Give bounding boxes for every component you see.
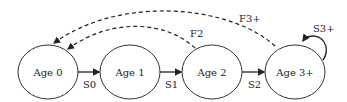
node-label: Age 3+	[275, 67, 313, 78]
node-age-0: Age 0	[18, 45, 78, 99]
edge-label: S3+	[313, 23, 335, 34]
edge-label: F3+	[239, 13, 261, 24]
node-age-2: Age 2	[182, 45, 242, 99]
edge-s1: S1	[160, 72, 181, 90]
diagram-svg: Age 0 Age 1 Age 2 Age 3+ S0 S1 S2	[0, 0, 347, 102]
edge-label: F2	[190, 28, 203, 39]
node-label: Age 1	[114, 67, 144, 78]
age-structured-life-cycle-diagram: Age 0 Age 1 Age 2 Age 3+ S0 S1 S2	[0, 0, 347, 102]
node-age-1: Age 1	[100, 45, 160, 99]
edge-f3-plus: F3+	[54, 11, 275, 46]
edge-label: S1	[165, 79, 178, 90]
edge-label: S0	[83, 79, 96, 90]
node-label: Age 2	[196, 67, 226, 78]
edge-s3-plus-self-loop: S3+	[303, 23, 335, 60]
node-label: Age 0	[32, 67, 62, 78]
node-age-3-plus: Age 3+	[265, 45, 325, 99]
edge-s0: S0	[78, 72, 99, 90]
edge-label: S2	[248, 79, 261, 90]
edge-s2: S2	[242, 72, 264, 90]
